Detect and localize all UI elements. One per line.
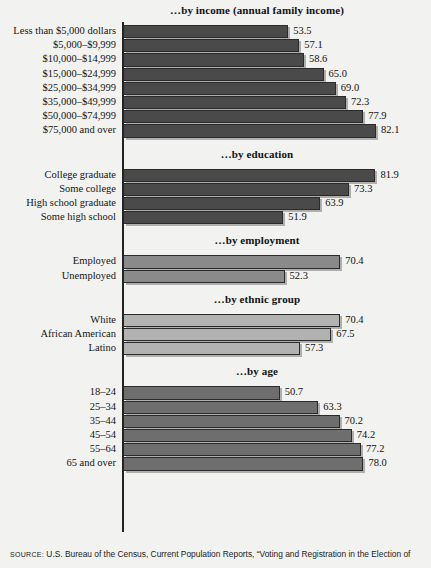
bar-category-label: Latino xyxy=(0,342,116,354)
bar-row: 65 and over78.0 xyxy=(0,456,431,470)
section-title-employment: …by employment xyxy=(122,234,392,247)
bar-value-label: 63.3 xyxy=(323,401,341,413)
bar-fill xyxy=(124,110,363,123)
bar-graphic xyxy=(124,124,376,137)
bar-value-label: 57.3 xyxy=(305,342,323,354)
bar-row: Some college73.3 xyxy=(0,182,431,196)
bar-category-label: 25–34 xyxy=(0,401,116,413)
bar-category-label: $35,000–$49,999 xyxy=(0,96,116,108)
chart-plot-area: …by income (annual family income)Less th… xyxy=(0,0,431,540)
bar-row: $25,000–$34,99969.0 xyxy=(0,81,431,95)
bar-value-label: 63.9 xyxy=(325,197,343,209)
bar-fill xyxy=(124,183,349,196)
bar-row: 55–6477.2 xyxy=(0,442,431,456)
bar-fill xyxy=(124,82,336,95)
bar-fill xyxy=(124,169,375,182)
bar-value-label: 53.5 xyxy=(293,25,311,37)
bar-graphic xyxy=(124,457,363,470)
bar-graphic xyxy=(124,401,318,414)
bar-row: High school graduate63.9 xyxy=(0,196,431,210)
bar-fill xyxy=(124,96,346,109)
bar-row: 25–3463.3 xyxy=(0,400,431,414)
bar-row: 18–2450.7 xyxy=(0,385,431,399)
bar-graphic xyxy=(124,429,352,442)
bar-fill xyxy=(124,25,288,38)
bar-graphic xyxy=(124,342,300,355)
bar-category-label: $50,000–$74,999 xyxy=(0,110,116,122)
bar-row: $50,000–$74,99977.9 xyxy=(0,109,431,123)
bar-value-label: 50.7 xyxy=(285,386,303,398)
bar-category-label: 65 and over xyxy=(0,457,116,469)
bar-row: $35,000–$49,99972.3 xyxy=(0,95,431,109)
bar-value-label: 70.4 xyxy=(345,314,363,326)
bar-value-label: 69.0 xyxy=(341,82,359,94)
bar-graphic xyxy=(124,39,299,52)
bar-category-label: Unemployed xyxy=(0,270,116,282)
bar-category-label: College graduate xyxy=(0,169,116,181)
figure-voter-turnout: …by income (annual family income)Less th… xyxy=(0,0,431,568)
bar-category-label: High school graduate xyxy=(0,197,116,209)
bar-fill xyxy=(124,68,324,81)
bar-row: 45–5474.2 xyxy=(0,428,431,442)
bar-value-label: 74.2 xyxy=(357,429,375,441)
bar-fill xyxy=(124,314,340,327)
bar-graphic xyxy=(124,255,340,268)
bar-value-label: 77.9 xyxy=(368,110,386,122)
bar-fill xyxy=(124,197,320,210)
bar-fill xyxy=(124,39,299,52)
bar-value-label: 78.0 xyxy=(368,457,386,469)
bar-graphic xyxy=(124,68,324,81)
bar-graphic xyxy=(124,386,280,399)
bar-category-label: Some college xyxy=(0,183,116,195)
bar-fill xyxy=(124,255,340,268)
bar-category-label: 18–24 xyxy=(0,386,116,398)
bar-value-label: 57.1 xyxy=(304,39,322,51)
bar-graphic xyxy=(124,314,340,327)
bar-fill xyxy=(124,53,304,66)
bar-row: $5,000–$9,99957.1 xyxy=(0,38,431,52)
bar-fill xyxy=(124,342,300,355)
bar-graphic xyxy=(124,415,340,428)
bar-category-label: $5,000–$9,999 xyxy=(0,39,116,51)
section-title-age: …by age xyxy=(122,365,392,378)
section-title-ethnic-group: …by ethnic group xyxy=(122,293,392,306)
bar-fill xyxy=(124,457,363,470)
bar-graphic xyxy=(124,183,349,196)
bar-value-label: 67.5 xyxy=(336,328,354,340)
bar-row: Unemployed52.3 xyxy=(0,269,431,283)
bar-graphic xyxy=(124,197,320,210)
section-title-education: …by education xyxy=(122,148,392,161)
source-note: SOURCE: U.S. Bureau of the Census, Curre… xyxy=(10,549,428,560)
bar-value-label: 70.4 xyxy=(345,255,363,267)
bar-fill xyxy=(124,443,361,456)
bar-fill xyxy=(124,429,352,442)
bar-row: 35–4470.2 xyxy=(0,414,431,428)
bar-fill xyxy=(124,328,331,341)
bar-category-label: Employed xyxy=(0,255,116,267)
bar-category-label: Less than $5,000 dollars xyxy=(0,25,116,37)
bar-graphic xyxy=(124,53,304,66)
section-title-income: …by income (annual family income) xyxy=(122,4,392,17)
bar-fill xyxy=(124,401,318,414)
bar-graphic xyxy=(124,270,285,283)
bar-row: $75,000 and over82.1 xyxy=(0,123,431,137)
bar-graphic xyxy=(124,443,361,456)
bar-value-label: 77.2 xyxy=(366,443,384,455)
bar-category-label: 35–44 xyxy=(0,415,116,427)
bar-value-label: 73.3 xyxy=(354,183,372,195)
bar-row: Latino57.3 xyxy=(0,341,431,355)
bar-category-label: $15,000–$24,999 xyxy=(0,68,116,80)
source-text: U.S. Bureau of the Census, Current Popul… xyxy=(44,549,410,559)
bar-category-label: Some high school xyxy=(0,211,116,223)
bar-category-label: 55–64 xyxy=(0,443,116,455)
bar-value-label: 65.0 xyxy=(329,68,347,80)
bar-row: White70.4 xyxy=(0,313,431,327)
bar-graphic xyxy=(124,169,375,182)
bar-graphic xyxy=(124,96,346,109)
source-kicker: SOURCE: xyxy=(10,551,44,558)
bar-category-label: $25,000–$34,999 xyxy=(0,82,116,94)
bar-row: Less than $5,000 dollars53.5 xyxy=(0,24,431,38)
bar-graphic xyxy=(124,328,331,341)
bar-value-label: 52.3 xyxy=(290,270,308,282)
bar-category-label: $10,000–$14,999 xyxy=(0,53,116,65)
